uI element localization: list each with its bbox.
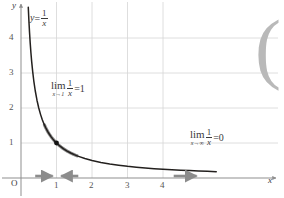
curve-equation-relation: = bbox=[34, 14, 40, 24]
limit-at-infinity-value: 0 bbox=[219, 133, 224, 143]
limit-at-one-fraction: 1x bbox=[67, 79, 74, 98]
limit-at-one-value: 1 bbox=[80, 84, 85, 94]
curve-equation-label: y=1x bbox=[30, 9, 49, 28]
limit-at-infinity-denominator: x bbox=[206, 138, 213, 147]
limit-at-one-denominator: x bbox=[67, 89, 74, 98]
limit-point-marker bbox=[54, 141, 59, 146]
limit-at-infinity-fraction: 1x bbox=[206, 128, 213, 147]
x-tick-label-3: 3 bbox=[125, 181, 130, 190]
limit-figure: 1 2 3 4 1 2 3 4 y x O y=1x limx→11x=1 li… bbox=[0, 0, 284, 198]
limit-at-one-label: limx→11x=1 bbox=[51, 79, 85, 98]
x-tick-label-2: 2 bbox=[89, 181, 94, 190]
x-tick-label-1: 1 bbox=[54, 181, 59, 190]
curve-equation-denominator: x bbox=[41, 19, 48, 28]
x-tick-label-4: 4 bbox=[160, 181, 165, 190]
y-tick-label-4: 4 bbox=[9, 33, 14, 42]
origin-label: O bbox=[11, 179, 18, 188]
limit-at-infinity-operator-word: lim bbox=[190, 129, 205, 140]
limit-at-one-operator-word: lim bbox=[51, 80, 66, 91]
limit-at-one-subscript: x→1 bbox=[51, 91, 66, 97]
limit-at-infinity-label: limx→∞1x=0 bbox=[190, 128, 224, 147]
plot-area bbox=[0, 0, 284, 198]
limit-at-infinity-subscript: x→∞ bbox=[190, 140, 205, 146]
y-axis-label: y bbox=[12, 1, 16, 10]
limit-at-infinity-operator: limx→∞ bbox=[190, 129, 205, 146]
y-tick-label-2: 2 bbox=[9, 103, 14, 112]
x-axis-label: x bbox=[268, 176, 272, 185]
curve-equation-fraction: 1x bbox=[41, 9, 48, 28]
right-parenthesis-decoration: ( bbox=[255, 14, 279, 84]
limit-at-one-operator: limx→1 bbox=[51, 80, 66, 97]
y-tick-label-1: 1 bbox=[9, 138, 14, 147]
y-tick-label-3: 3 bbox=[9, 68, 14, 77]
